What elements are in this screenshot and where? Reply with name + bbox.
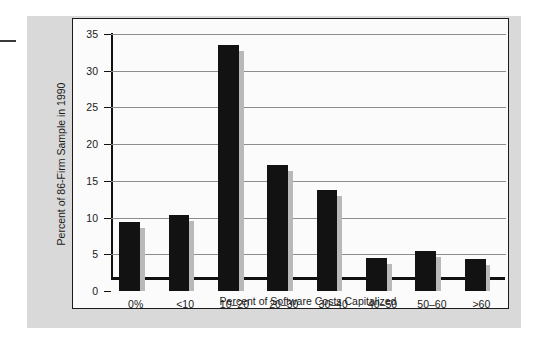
bar-group[interactable]: 50–60 — [407, 34, 456, 291]
bar[interactable] — [317, 190, 338, 291]
y-axis-tick-label: 15 — [86, 175, 103, 187]
bar-group[interactable]: 10–20 — [210, 34, 259, 291]
page-edge-rule — [0, 40, 16, 42]
y-axis-tick — [104, 291, 111, 292]
bar-group[interactable]: <10 — [160, 34, 209, 291]
y-axis-tick-label: 10 — [86, 212, 103, 224]
bar[interactable] — [267, 165, 288, 291]
bar-group[interactable]: 20–30 — [259, 34, 308, 291]
y-axis-tick — [104, 71, 111, 72]
bar[interactable] — [218, 45, 239, 291]
y-axis-tick-label: 5 — [92, 248, 103, 260]
y-axis-tick — [104, 218, 111, 219]
y-axis-tick — [104, 107, 111, 108]
bar[interactable] — [119, 222, 140, 291]
bar[interactable] — [415, 251, 436, 291]
y-axis-tick — [104, 181, 111, 182]
figure-panel: Percent of 86-Firm Sample in 1990 051015… — [27, 16, 521, 328]
chart-plot-card: Percent of 86-Firm Sample in 1990 051015… — [72, 18, 509, 309]
bar-group[interactable]: 40–50 — [358, 34, 407, 291]
y-axis-tick-label: 30 — [86, 65, 103, 77]
plot-area: 05101520253035 0%<1010–2020–3030–4040–50… — [111, 34, 506, 291]
bar[interactable] — [169, 215, 190, 291]
bar-group[interactable]: >60 — [457, 34, 506, 291]
y-axis-tick — [104, 34, 111, 35]
y-axis-tick-label: 25 — [86, 101, 103, 113]
bar-group[interactable]: 0% — [111, 34, 160, 291]
y-axis-tick — [104, 144, 111, 145]
y-axis-tick — [104, 254, 111, 255]
y-axis-tick-label: 0 — [92, 285, 103, 297]
y-axis-title: Percent of 86-Firm Sample in 1990 — [55, 82, 67, 245]
bar[interactable] — [366, 258, 387, 291]
y-axis-tick-label: 20 — [86, 138, 103, 150]
bar[interactable] — [465, 259, 486, 291]
x-axis-title: Percent of Software Costs Capitalized — [111, 295, 505, 307]
bar-group[interactable]: 30–40 — [309, 34, 358, 291]
y-axis-tick-label: 35 — [86, 28, 103, 40]
